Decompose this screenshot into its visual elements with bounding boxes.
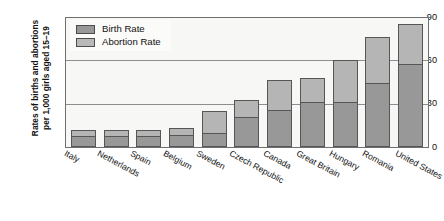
legend-swatch-abortion-rate-icon	[76, 38, 95, 47]
legend-item-birth-rate: Birth Rate	[76, 24, 161, 34]
legend-label-birth-rate: Birth Rate	[102, 24, 145, 34]
bar-segment-abortion-rate	[333, 60, 358, 103]
bar-sweden	[202, 111, 227, 147]
bar-segment-abortion-rate	[398, 24, 423, 66]
bar-segment-birth-rate	[169, 136, 194, 147]
legend-item-abortion-rate: Abortion Rate	[76, 37, 161, 47]
y-axis-title: Rates of births and abortions per 1,000 …	[30, 4, 52, 152]
bar-segment-abortion-rate	[202, 111, 227, 134]
bar-belgium	[169, 128, 194, 147]
bar-canada	[267, 80, 292, 147]
bar-segment-birth-rate	[71, 137, 96, 147]
bar-great-britain	[300, 78, 325, 147]
bar-segment-birth-rate	[104, 137, 129, 147]
x-label-united-states: United States	[394, 149, 444, 181]
bar-italy	[71, 130, 96, 147]
legend: Birth Rate Abortion Rate	[70, 20, 171, 51]
bar-spain	[136, 130, 161, 147]
bar-segment-birth-rate	[365, 84, 390, 147]
bar-segment-birth-rate	[398, 65, 423, 147]
bar-segment-birth-rate	[234, 118, 259, 147]
legend-swatch-birth-rate-icon	[76, 25, 95, 34]
bar-romania	[365, 37, 390, 147]
bar-segment-abortion-rate	[71, 130, 96, 137]
x-label-sweden: Sweden	[195, 149, 227, 172]
bar-segment-birth-rate	[300, 103, 325, 147]
x-label-belgium: Belgium	[162, 149, 194, 172]
bar-segment-abortion-rate	[104, 130, 129, 137]
legend-label-abortion-rate: Abortion Rate	[102, 37, 161, 47]
x-axis-labels: ItalyNetherlandsSpainBelgiumSwedenCzech …	[65, 149, 429, 221]
bar-segment-birth-rate	[267, 111, 292, 147]
bar-segment-birth-rate	[136, 137, 161, 147]
y-axis-title-area: Rates of births and abortions per 1,000 …	[0, 0, 34, 160]
x-label-romania: Romania	[361, 149, 396, 173]
bar-segment-birth-rate	[202, 134, 227, 147]
bar-netherlands	[104, 130, 129, 147]
bar-united-states	[398, 24, 423, 147]
x-label-italy: Italy	[63, 149, 81, 164]
bar-segment-abortion-rate	[169, 128, 194, 135]
bar-hungary	[333, 60, 358, 147]
bar-segment-abortion-rate	[267, 80, 292, 112]
bar-segment-abortion-rate	[234, 100, 259, 119]
bar-segment-abortion-rate	[365, 37, 390, 84]
bar-czech-republic	[234, 100, 259, 147]
bar-segment-abortion-rate	[136, 130, 161, 137]
bar-segment-birth-rate	[333, 103, 358, 147]
bar-segment-abortion-rate	[300, 78, 325, 102]
